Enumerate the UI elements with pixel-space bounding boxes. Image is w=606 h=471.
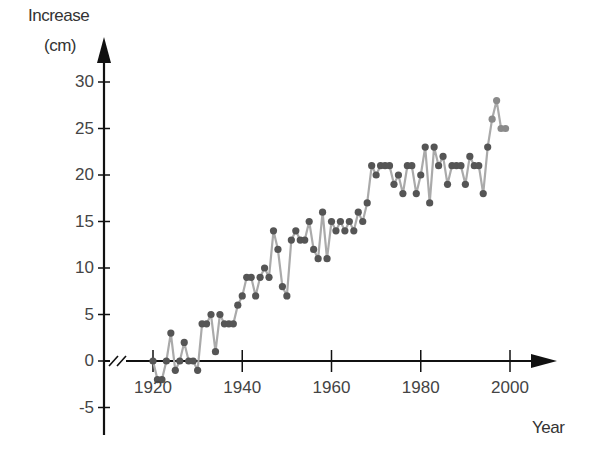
data-point bbox=[315, 255, 322, 262]
data-point bbox=[426, 199, 433, 206]
axis-break-icon bbox=[109, 355, 126, 367]
data-point bbox=[216, 311, 223, 318]
data-point bbox=[270, 227, 277, 234]
data-point bbox=[149, 357, 156, 364]
data-point bbox=[301, 237, 308, 244]
data-point bbox=[283, 292, 290, 299]
data-point bbox=[457, 162, 464, 169]
y-tick-label: 30 bbox=[75, 72, 94, 92]
data-point bbox=[319, 209, 326, 216]
data-point bbox=[234, 302, 241, 309]
data-point bbox=[350, 227, 357, 234]
data-point bbox=[417, 171, 424, 178]
data-point bbox=[306, 218, 313, 225]
data-point bbox=[176, 357, 183, 364]
data-point bbox=[466, 153, 473, 160]
data-point bbox=[493, 97, 500, 104]
data-point bbox=[475, 162, 482, 169]
data-point bbox=[181, 339, 188, 346]
data-point bbox=[203, 320, 210, 327]
data-point bbox=[395, 171, 402, 178]
data-point bbox=[323, 255, 330, 262]
data-point bbox=[279, 283, 286, 290]
data-point bbox=[444, 181, 451, 188]
y-axis-label-line2: (cm) bbox=[44, 36, 76, 56]
y-tick-label: 20 bbox=[75, 165, 94, 185]
series-line bbox=[153, 101, 506, 380]
data-point bbox=[172, 367, 179, 374]
data-point bbox=[364, 199, 371, 206]
y-axis-arrow-icon bbox=[97, 37, 111, 63]
data-point bbox=[190, 357, 197, 364]
data-point bbox=[413, 190, 420, 197]
line-chart: Increase (cm) Year 302520151050-5 192019… bbox=[0, 0, 606, 471]
data-point bbox=[265, 274, 272, 281]
data-point bbox=[408, 162, 415, 169]
x-tick-label: 1940 bbox=[223, 378, 261, 398]
data-point bbox=[399, 190, 406, 197]
data-point bbox=[332, 227, 339, 234]
data-point bbox=[239, 292, 246, 299]
data-point bbox=[274, 246, 281, 253]
data-point bbox=[207, 311, 214, 318]
data-point bbox=[261, 264, 268, 271]
data-point bbox=[252, 292, 259, 299]
data-point bbox=[484, 144, 491, 151]
y-tick-label: 15 bbox=[75, 212, 94, 232]
data-point bbox=[422, 144, 429, 151]
x-tick-label: 1960 bbox=[313, 378, 351, 398]
data-point bbox=[431, 144, 438, 151]
data-point bbox=[292, 227, 299, 234]
data-point bbox=[194, 367, 201, 374]
data-point bbox=[373, 171, 380, 178]
x-axis-label: Year bbox=[532, 418, 564, 438]
data-point bbox=[386, 162, 393, 169]
data-point bbox=[355, 209, 362, 216]
data-point bbox=[346, 218, 353, 225]
x-axis-arrow-icon bbox=[531, 354, 557, 368]
data-point bbox=[163, 357, 170, 364]
data-point bbox=[341, 227, 348, 234]
data-point bbox=[288, 237, 295, 244]
data-point bbox=[230, 320, 237, 327]
data-point bbox=[462, 181, 469, 188]
data-point bbox=[502, 125, 509, 132]
data-point bbox=[435, 162, 442, 169]
data-point bbox=[167, 330, 174, 337]
data-point bbox=[489, 116, 496, 123]
data-point bbox=[328, 218, 335, 225]
data-point bbox=[359, 218, 366, 225]
x-tick-label: 1920 bbox=[134, 378, 172, 398]
data-point bbox=[212, 348, 219, 355]
y-tick-label: 0 bbox=[85, 351, 94, 371]
x-tick-label: 2000 bbox=[491, 378, 529, 398]
data-point bbox=[248, 274, 255, 281]
data-point bbox=[368, 162, 375, 169]
y-tick-label: 5 bbox=[85, 305, 94, 325]
y-axis-label-line1: Increase bbox=[28, 6, 89, 26]
data-point bbox=[480, 190, 487, 197]
data-point bbox=[390, 181, 397, 188]
data-point bbox=[439, 153, 446, 160]
data-point bbox=[310, 246, 317, 253]
y-tick-label: 10 bbox=[75, 258, 94, 278]
x-tick-label: 1980 bbox=[402, 378, 440, 398]
data-point bbox=[337, 218, 344, 225]
data-point bbox=[257, 274, 264, 281]
y-tick-label: -5 bbox=[79, 398, 94, 418]
y-tick-label: 25 bbox=[75, 119, 94, 139]
